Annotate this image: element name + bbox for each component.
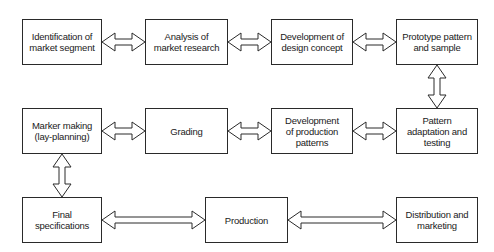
node-identification-of-market-segment: Identification of market segment — [22, 19, 102, 65]
node-label-line: (lay-planning) — [32, 131, 92, 142]
node-prototype-pattern-and-sample: Prototype pattern and sample — [396, 19, 478, 65]
node-production: Production — [205, 197, 288, 243]
node-label-line: Marker making — [32, 120, 92, 131]
node-label-line: adaptation and — [407, 126, 467, 137]
process-flow-diagram: Identification of market segment Analysi… — [0, 0, 494, 252]
node-grading: Grading — [145, 108, 228, 154]
node-label-line: Production — [225, 215, 268, 226]
node-label-line: Pattern — [407, 115, 467, 126]
double-arrow-icon — [428, 65, 446, 108]
node-label-line: Prototype pattern — [402, 31, 471, 42]
node-label-line: market research — [154, 42, 220, 53]
node-distribution-and-marketing: Distribution and marketing — [396, 197, 478, 243]
node-development-of-design-concept: Development of design concept — [271, 19, 353, 65]
node-label-line: of production — [285, 126, 339, 137]
double-arrow-icon — [102, 33, 145, 51]
node-label-line: market segment — [29, 42, 94, 53]
node-label-line: Analysis of — [154, 31, 220, 42]
double-arrow-icon — [288, 211, 396, 229]
node-label-line: Distribution and — [406, 209, 469, 220]
double-arrow-icon — [228, 122, 271, 140]
double-arrow-icon — [102, 211, 205, 229]
node-label-line: testing — [407, 137, 467, 148]
double-arrow-icon — [353, 33, 396, 51]
node-marker-making: Marker making (lay-planning) — [22, 108, 102, 154]
double-arrow-icon — [228, 33, 271, 51]
node-label-line: patterns — [285, 137, 339, 148]
double-arrow-icon — [102, 122, 145, 140]
node-final-specifications: Final specifications — [22, 197, 102, 243]
node-label-line: marketing — [406, 220, 469, 231]
node-analysis-of-market-research: Analysis of market research — [145, 19, 228, 65]
node-label-line: design concept — [280, 42, 344, 53]
node-label-line: Development of — [280, 31, 344, 42]
node-label-line: Development — [285, 115, 339, 126]
double-arrow-icon — [53, 154, 71, 197]
node-label-line: Grading — [170, 126, 202, 137]
node-label-line: Identification of — [29, 31, 94, 42]
node-development-of-production-patterns: Development of production patterns — [271, 108, 353, 154]
node-label-line: specifications — [35, 220, 89, 231]
node-label-line: and sample — [402, 42, 471, 53]
node-pattern-adaptation-and-testing: Pattern adaptation and testing — [396, 108, 478, 154]
double-arrow-icon — [353, 122, 396, 140]
node-label-line: Final — [35, 209, 89, 220]
